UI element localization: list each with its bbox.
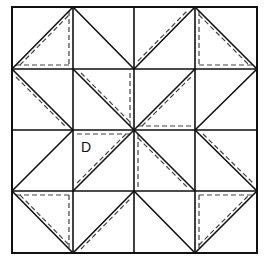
seam-line [81,199,130,249]
cell-diagonal [73,7,134,69]
cell-diagonal [195,7,257,69]
cell-diagonal [134,69,195,130]
cell-diagonal [12,130,73,191]
cell-diagonal [73,69,134,130]
cell-diagonal [195,69,257,130]
seam-line [81,73,130,122]
cell-diagonal [134,7,195,69]
seam-line [142,77,191,126]
cell-diagonal [12,7,73,69]
cell-diagonal [12,69,73,130]
seam-line [138,11,187,61]
seam-line [199,15,249,65]
seam-line [20,15,69,65]
cell-diagonal [73,191,134,253]
seam-line [20,195,69,245]
labels: D [81,139,91,155]
seam-line [138,138,187,187]
cell-diagonal [195,130,257,191]
cell-diagonal [134,191,195,253]
cell-diagonal [134,130,195,191]
cell-diagonal [195,191,257,253]
grid-lines [12,7,257,253]
seam-line [199,195,249,245]
quilt-diagram: D [0,0,266,263]
seam-line [16,77,65,126]
piece-label: D [81,139,91,155]
seam-line [203,134,253,183]
cell-diagonal [12,191,73,253]
